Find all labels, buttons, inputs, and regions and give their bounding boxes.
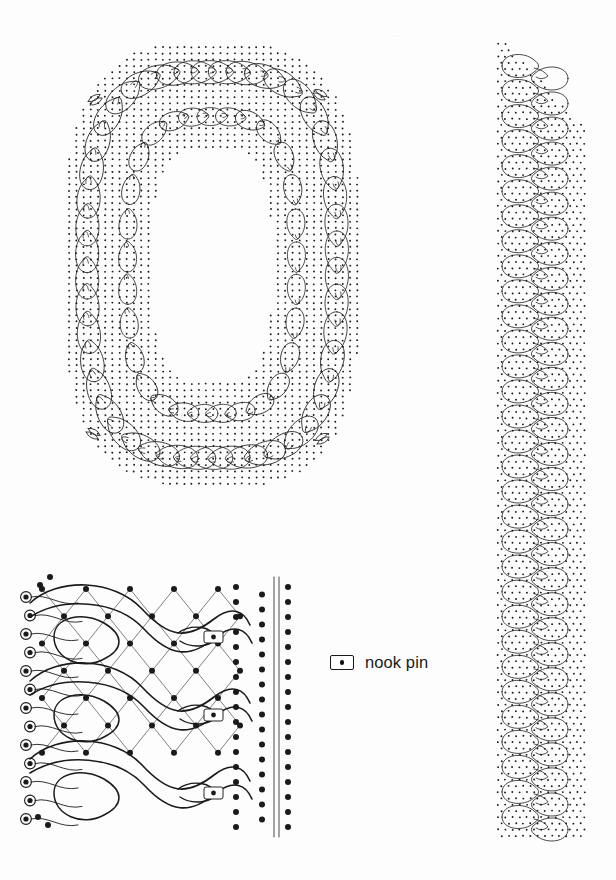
nook-pin-symbol	[330, 655, 354, 670]
nook-pin-dot	[340, 660, 345, 665]
legend-label: nook pin	[365, 653, 428, 672]
thread-working-diagram	[0, 0, 616, 880]
pattern-sheet: ~ nook pin	[0, 0, 616, 880]
legend-nook-pin: nook pin	[330, 653, 428, 672]
